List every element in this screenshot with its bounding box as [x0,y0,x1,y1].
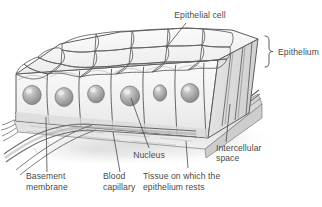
label-blood-capillary-line1: Blood [103,171,125,182]
label-basement-membrane-line2: membrane [26,182,68,193]
nucleus [88,85,105,103]
nucleus [153,85,166,101]
label-nucleus: Nucleus [113,150,185,161]
epithelium-diagram: Epithelial cell Epithelium Intercellular… [0,0,322,207]
label-intercellular-space-line2: space [216,153,239,164]
label-tissue-line1: Tissue on which the [143,171,220,182]
nucleus [181,84,199,103]
epithelium-brace [265,36,273,67]
label-basement-membrane-line1: Basement [26,171,65,182]
label-epithelium: Epithelium [278,47,319,58]
nucleus [23,85,41,104]
label-blood-capillary-line2: capillary [103,182,135,193]
nucleus [120,86,139,106]
label-epithelial-cell: Epithelial cell [154,10,246,21]
label-intercellular-space-line1: Intercellular [216,143,262,154]
nucleus [55,88,73,107]
label-tissue-line2: epithelium rests [143,182,205,193]
